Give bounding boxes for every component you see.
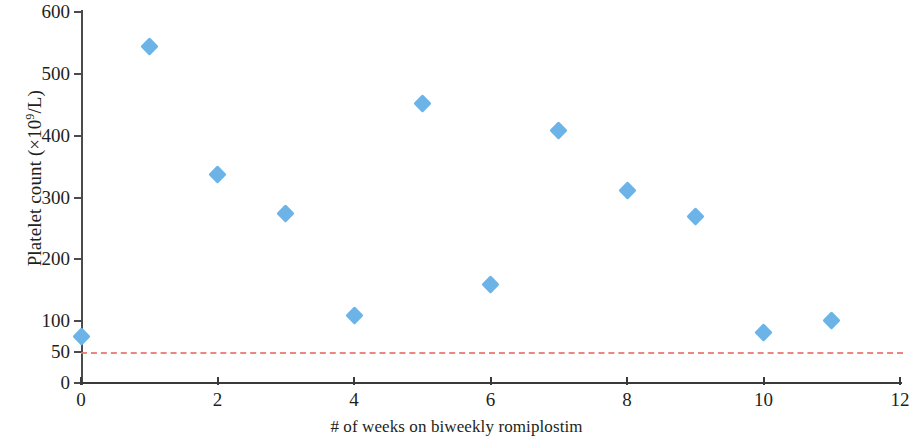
x-tick-label-8: 8 (607, 390, 647, 409)
y-tick-label-50: 50 (8, 342, 70, 361)
y-tick-label-200: 200 (8, 249, 70, 268)
x-tick-label-6: 6 (471, 390, 511, 409)
y-tick-300 (74, 197, 82, 199)
y-tick-label-400: 400 (8, 126, 70, 145)
data-point (550, 122, 568, 140)
data-point (277, 204, 295, 222)
y-axis-title: Platelet count (×109/L) (24, 48, 44, 308)
x-tick-label-0: 0 (61, 390, 101, 409)
scatter-chart: Platelet count (×109/L) 0501002003004005… (0, 0, 913, 446)
x-tick-4 (353, 377, 355, 385)
x-tick-12 (899, 377, 901, 385)
y-tick-100 (74, 320, 82, 322)
y-tick-label-300: 300 (8, 188, 70, 207)
x-tick-label-10: 10 (744, 390, 784, 409)
x-axis-title: # of weeks on biweekly romiplostim (0, 418, 913, 435)
x-tick-10 (763, 377, 765, 385)
data-point (618, 181, 636, 199)
y-tick-500 (74, 73, 82, 75)
data-point (686, 207, 704, 225)
x-tick-label-2: 2 (198, 390, 238, 409)
x-tick-label-12: 12 (880, 390, 913, 409)
x-tick-2 (217, 377, 219, 385)
x-tick-8 (626, 377, 628, 385)
x-axis-line (81, 382, 902, 384)
y-tick-label-500: 500 (8, 64, 70, 83)
y-axis-title-tail: /L) (24, 90, 45, 114)
data-point (823, 311, 841, 329)
data-point (140, 37, 158, 55)
x-tick-6 (490, 377, 492, 385)
y-tick-label-100: 100 (8, 311, 70, 330)
data-point (413, 94, 431, 112)
data-point (481, 275, 499, 293)
reference-line-platelet-threshold (81, 352, 903, 354)
y-tick-200 (74, 258, 82, 260)
x-tick-label-4: 4 (334, 390, 374, 409)
y-tick-400 (74, 135, 82, 137)
data-point (754, 323, 772, 341)
x-tick-0 (80, 377, 82, 385)
y-axis-title-exponent: 9 (23, 114, 37, 120)
data-point (345, 306, 363, 324)
data-point (208, 165, 226, 183)
y-tick-600 (74, 11, 82, 13)
y-tick-label-600: 600 (8, 2, 70, 21)
data-point (72, 327, 90, 345)
